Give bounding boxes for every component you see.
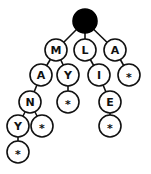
letter-node: E xyxy=(99,91,121,113)
letter-node: L xyxy=(74,39,96,61)
terminal-node: * xyxy=(118,64,140,86)
terminal-node: * xyxy=(99,115,121,137)
node-label: E xyxy=(106,96,114,109)
letter-node: Y xyxy=(7,115,29,137)
letter-node: N xyxy=(19,91,41,113)
node-label: * xyxy=(15,148,21,161)
terminal-node: * xyxy=(57,91,79,113)
node-label: L xyxy=(81,44,88,57)
node-label: * xyxy=(65,98,71,111)
terminal-node: * xyxy=(7,141,29,163)
node-label: I xyxy=(97,69,101,82)
node-label: Y xyxy=(63,69,73,82)
letter-node: M xyxy=(45,39,67,61)
node-label: Y xyxy=(13,120,23,133)
node-label: A xyxy=(111,44,120,57)
letter-node: I xyxy=(88,64,110,86)
node-label: * xyxy=(107,122,113,135)
node-label: * xyxy=(39,122,45,135)
node-label: A xyxy=(37,69,46,82)
node-label: M xyxy=(51,44,62,57)
letter-node: A xyxy=(30,64,52,86)
trie-diagram: MLAAYI*N*EY*** xyxy=(0,0,151,174)
terminal-node: * xyxy=(31,115,53,137)
root-node xyxy=(73,9,97,33)
node-label: * xyxy=(126,71,132,84)
node-label: N xyxy=(25,96,34,109)
letter-node: Y xyxy=(57,64,79,86)
letter-node: A xyxy=(104,39,126,61)
